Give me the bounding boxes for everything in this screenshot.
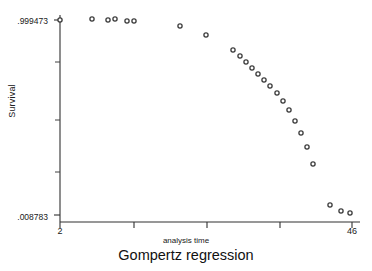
y-axis-ticks — [54, 20, 60, 215]
y-axis-label: Survival — [7, 61, 17, 141]
data-point-5 — [132, 19, 136, 23]
data-point-19 — [299, 131, 303, 135]
axes-group — [60, 15, 360, 222]
chart-title: Gompertz regression — [0, 247, 372, 263]
data-point-14 — [268, 84, 272, 88]
x-axis-ticks — [60, 222, 352, 228]
data-point-18 — [293, 119, 297, 123]
y-axis-tick-label-top: .999473 — [0, 16, 48, 26]
y-axis-tick-label-bottom: .008783 — [0, 212, 48, 222]
data-point-15 — [275, 91, 279, 95]
x-axis-tick-label-max: 46 — [337, 226, 367, 236]
x-axis-tick-label-min: 2 — [45, 226, 75, 236]
data-point-2 — [106, 18, 110, 22]
data-points-group — [58, 17, 352, 215]
data-point-1 — [90, 17, 94, 21]
data-point-3 — [113, 17, 117, 21]
data-point-7 — [204, 33, 208, 37]
data-point-23 — [339, 209, 343, 213]
x-axis-label: analysis time — [0, 236, 372, 245]
data-point-13 — [262, 78, 266, 82]
data-point-20 — [305, 145, 309, 149]
data-point-0 — [58, 18, 62, 22]
data-point-10 — [244, 60, 248, 64]
data-point-8 — [231, 48, 235, 52]
data-point-12 — [256, 72, 260, 76]
data-point-16 — [281, 99, 285, 103]
data-point-17 — [287, 108, 291, 112]
data-point-24 — [348, 211, 352, 215]
data-point-4 — [125, 19, 129, 23]
data-point-9 — [238, 54, 242, 58]
data-point-11 — [250, 66, 254, 70]
data-point-21 — [311, 162, 315, 166]
gompertz-regression-chart: Survival .999473 .008783 2 46 analysis t… — [0, 0, 372, 271]
data-point-6 — [178, 24, 182, 28]
data-point-22 — [328, 203, 332, 207]
